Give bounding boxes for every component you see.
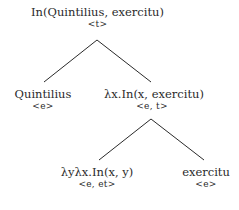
edge-root-left [44,40,97,82]
edge-right-rightleft [99,119,151,160]
edge-root-right [97,40,151,82]
right-label: λx.In(x, exercitu) [104,88,200,101]
root-label: In(Quintilius, exercitu) [30,6,165,19]
right-right-type: <e> [176,179,236,190]
right-right-label: exercitu [176,166,236,179]
root-node: In(Quintilius, exercitu) <t> [30,6,165,30]
left-node: Quintilius <e> [4,88,82,112]
root-type: <t> [30,19,165,30]
left-type: <e> [4,101,82,112]
right-node: λx.In(x, exercitu) <e, t> [104,88,200,112]
edge-right-rightright [151,119,204,160]
right-right-node: exercitu <e> [176,166,236,190]
right-type: <e, t> [104,101,200,112]
right-left-label: λyλx.In(x, y) [52,166,142,179]
right-left-type: <e, et> [52,179,142,190]
right-left-node: λyλx.In(x, y) <e, et> [52,166,142,190]
left-label: Quintilius [4,88,82,101]
